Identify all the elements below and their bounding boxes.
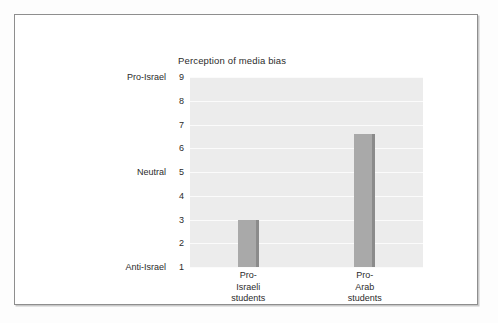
- y-axis-category-label: Pro-Israel: [86, 72, 166, 82]
- x-axis-label-line: students: [203, 293, 293, 305]
- y-axis-category-labels: Pro-IsraelNeutralAnti-Israel: [15, 15, 477, 304]
- y-axis-category-label: Neutral: [86, 167, 166, 177]
- figure-frame: Perception of media bias 123456789 Pro-I…: [14, 14, 478, 305]
- y-axis-category-label: Anti-Israel: [86, 262, 166, 272]
- x-axis-label-line: Pro-: [320, 270, 410, 282]
- x-axis-label-line: students: [320, 293, 410, 305]
- x-axis-label-line: Israeli: [203, 282, 293, 294]
- x-axis-label: Pro-Israelistudents: [203, 270, 293, 305]
- x-axis-label: Pro-Arabstudents: [320, 270, 410, 305]
- x-axis-label-line: Arab: [320, 282, 410, 294]
- x-axis-label-line: Pro-: [203, 270, 293, 282]
